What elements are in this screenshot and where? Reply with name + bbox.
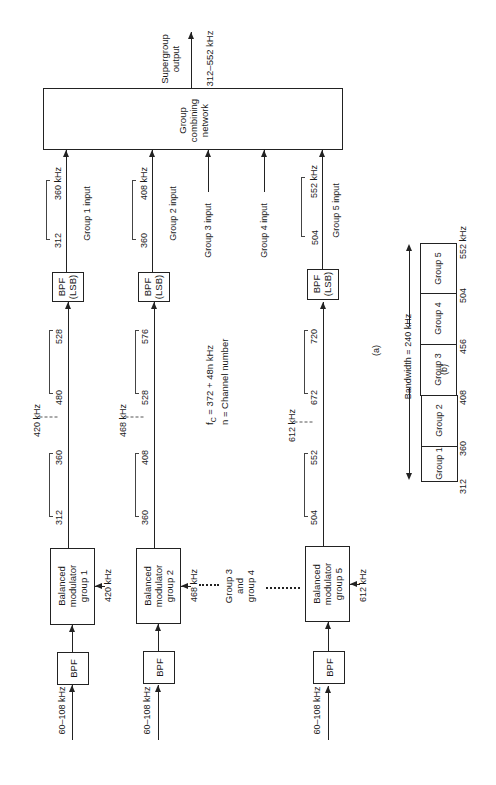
ch5-carrier-label: 612 kHz: [358, 566, 369, 606]
ch1-modulator-label: Balanced modulator group 1: [56, 552, 90, 620]
g5-input-label: Group 5 input: [331, 181, 342, 241]
ch2-mod-arrow-icon: [155, 624, 161, 631]
g5-bracket: [301, 177, 305, 237]
ch1-main-line: [68, 302, 69, 548]
ch2-main-line: [154, 302, 155, 548]
ch2-input-arrow-icon: [155, 685, 161, 692]
bandwidth-arrow-up-icon: [406, 244, 412, 251]
ch1-mod-arrow-icon: [69, 625, 75, 632]
supergroup-output-arrow-icon: [188, 32, 194, 39]
ch2-lsb-high: 408: [140, 447, 151, 469]
ch2-usb-high: 576: [140, 326, 151, 348]
combiner-label: Group combining network: [177, 86, 210, 156]
spectrum-group-1-label: Group 1: [434, 439, 445, 489]
ch2-bpf-lsb-label: BPF (LSB): [142, 272, 164, 302]
ch1-main-arrow-icon: [65, 302, 71, 309]
g2-input-label: Group 2 input: [168, 184, 179, 244]
ch5-lsb-low: 504: [309, 507, 320, 529]
edge-312: 312: [458, 476, 469, 498]
ch5-bpf-lsb-label: BPF (LSB): [311, 269, 333, 299]
ch1-carrier-arrow-icon: [95, 583, 102, 589]
edge-552: 552 kHz: [458, 221, 469, 265]
ch2-usb-low: 528: [140, 387, 151, 409]
ch2-input-label: 60–108 kHz: [142, 681, 153, 741]
ch1-bpf-label: BPF: [68, 654, 79, 684]
bandwidth-label: Bandwidth = 240 kHz: [403, 309, 414, 405]
ch1-group-input-arrow-icon: [63, 150, 69, 157]
group34-dots-left: [199, 584, 219, 586]
ch1-input-line: [72, 685, 73, 740]
ch5-group-input-line: [322, 150, 323, 269]
panel-a-caption: (a): [371, 343, 382, 359]
ch1-input-arrow-icon: [69, 685, 75, 692]
ch2-carrier-label: 468 kHz: [189, 566, 200, 606]
ch5-lsb-bracket: [304, 453, 308, 517]
ch2-bpf-label: BPF: [154, 653, 165, 683]
g5-high: 552 kHz: [309, 160, 320, 204]
ch2-lsb-low: 360: [140, 507, 151, 529]
bandwidth-line-lower: [409, 388, 410, 474]
edge-456: 456: [458, 336, 469, 358]
g1-bracket: [46, 180, 50, 240]
ch2-modulator-label: Balanced modulator group 2: [142, 552, 176, 620]
g2-low: 360: [139, 230, 150, 252]
ch5-input-arrow-icon: [325, 686, 331, 693]
ch5-main-arrow-icon: [320, 302, 326, 309]
ch5-usb-bracket: [304, 330, 308, 394]
carrier-formula: fC = 372 + 48n kHz n = Channel number: [204, 325, 226, 425]
ch2-main-arrow-icon: [151, 302, 157, 309]
ch1-bpf-lsb-label: BPF (LSB): [56, 272, 78, 302]
g4-input-label: Group 4 input: [259, 201, 270, 261]
ch5-mod-arrow-icon: [325, 622, 331, 629]
ch2-input-line: [158, 685, 159, 740]
ch5-modulator-label: Balanced modulator group 5: [311, 550, 345, 618]
supergroup-output-label: Supergroup output: [159, 29, 181, 89]
g1-high: 360 kHz: [53, 162, 64, 206]
ch2-carrier-arrow-icon: [181, 583, 188, 589]
ch5-spectrum-carrier: 612 kHz: [287, 405, 298, 447]
ch1-usb-low: 480: [54, 387, 65, 409]
g1-low: 312: [53, 230, 64, 252]
ch5-input-label: 60–108 kHz: [312, 681, 323, 741]
ch5-usb-high: 720: [309, 326, 320, 348]
g5-low: 504: [310, 227, 321, 249]
ch1-lsb-high: 360: [54, 447, 65, 469]
group34-note: Group 3 and group 4: [223, 559, 257, 613]
ch1-group-input-line: [66, 150, 67, 272]
g2-bracket: [132, 180, 136, 240]
ch1-lsb-bracket: [49, 453, 53, 517]
supergroup-output-range: 312–552 kHz: [204, 27, 215, 91]
bandwidth-arrow-down-icon: [406, 473, 412, 480]
g3-input-arrow-icon: [205, 150, 211, 157]
edge-504: 504: [458, 285, 469, 307]
ch2-group-input-line: [152, 150, 153, 272]
ch5-carrier-arrow-icon: [350, 581, 357, 587]
group34-dots-right: [266, 587, 300, 589]
supergroup-output-line: [191, 32, 192, 88]
ch2-spectrum-carrier: 468 kHz: [118, 400, 129, 442]
edge-408: 408: [458, 387, 469, 409]
panel-b-caption: (b): [439, 362, 450, 378]
g3-input-label: Group 3 input: [203, 201, 214, 261]
ch5-bpf-label: BPF: [324, 653, 335, 683]
g1-input-label: Group 1 input: [82, 184, 93, 244]
ch2-group-input-arrow-icon: [149, 150, 155, 157]
spectrum-group-5-label: Group 5: [433, 244, 444, 294]
ch1-usb-high: 528: [54, 326, 65, 348]
spectrum-group-4-label: Group 4: [433, 294, 444, 344]
ch2-usb-bracket: [135, 330, 139, 394]
edge-360: 360: [458, 438, 469, 460]
ch5-group-input-arrow-icon: [319, 150, 325, 157]
ch1-carrier-label: 420 kHz: [103, 566, 114, 606]
ch5-usb-low: 672: [309, 387, 320, 409]
ch2-lsb-bracket: [135, 453, 139, 517]
g4-input-arrow-icon: [261, 150, 267, 157]
ch5-lsb-high: 552: [309, 447, 320, 469]
ch5-main-line: [323, 302, 324, 546]
g2-high: 408 kHz: [139, 162, 150, 206]
ch1-input-label: 60–108 kHz: [57, 681, 68, 741]
ch1-usb-bracket: [49, 330, 53, 394]
ch1-lsb-low: 312: [54, 507, 65, 529]
ch1-spectrum-carrier: 420 kHz: [32, 400, 43, 442]
ch5-input-line: [328, 686, 329, 740]
